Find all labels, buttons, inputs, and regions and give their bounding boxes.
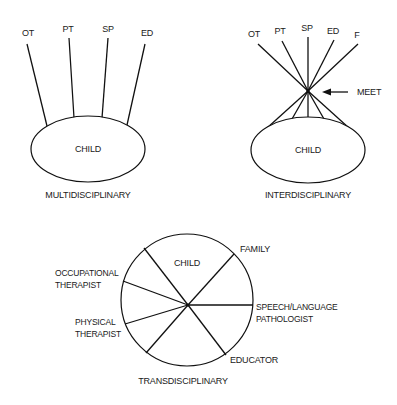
interdisciplinary-title: INTERDISCIPLINARY: [265, 190, 351, 200]
f-connector: [308, 44, 358, 91]
ed-connector: [308, 40, 334, 91]
ot-connector: [27, 44, 47, 126]
child-segment-label: CHILD: [174, 258, 201, 268]
pt-label: PT: [62, 24, 74, 34]
ot-label: OT: [22, 28, 35, 38]
ot-label-line1: OCCUPATIONAL: [55, 268, 119, 278]
pt-connector: [69, 38, 74, 118]
ed-label: ED: [141, 28, 154, 38]
family-label: FAMILY: [240, 244, 270, 254]
multidisciplinary-model: OT PT SP ED CHILD MULTIDISCIPLINARY: [22, 24, 154, 200]
transdisciplinary-title: TRANSDISCIPLINARY: [138, 376, 228, 386]
ed-label: ED: [327, 26, 340, 36]
slp-label-line2: PATHOLOGIST: [256, 314, 313, 324]
sp-connector: [102, 38, 108, 118]
transdisciplinary-model: CHILD FAMILY SPEECH/LANGUAGE PATHOLOGIST…: [55, 234, 338, 386]
ot-connector: [258, 44, 308, 91]
meet-to-child-line: [292, 91, 308, 119]
child-label: CHILD: [75, 144, 102, 154]
slp-label-line1: SPEECH/LANGUAGE: [256, 302, 338, 312]
ed-connector: [127, 44, 145, 125]
center-point: [186, 303, 189, 306]
meet-point: [306, 89, 310, 93]
interdisciplinary-model: OT PT SP ED F MEET CHILD INTERDISCIPLINA…: [248, 23, 382, 200]
child-label: CHILD: [295, 145, 322, 155]
multidisciplinary-title: MULTIDISCIPLINARY: [45, 190, 130, 200]
pt-label: PT: [274, 26, 286, 36]
pt-connector: [282, 41, 308, 91]
ot-label: OT: [248, 29, 261, 39]
pt-label-line1: PHYSICAL: [75, 317, 116, 327]
f-label: F: [354, 30, 360, 40]
meet-to-child-line: [308, 91, 324, 119]
team-circle: [121, 234, 253, 366]
meet-arrow-icon: [322, 89, 331, 96]
sp-label: SP: [301, 23, 313, 33]
team-models-diagram: OT PT SP ED CHILD MULTIDISCIPLINARY OT P…: [0, 0, 397, 405]
meet-label: MEET: [357, 87, 382, 97]
ot-label-line2: THERAPIST: [55, 280, 101, 290]
pt-label-line2: THERAPIST: [75, 329, 121, 339]
educator-label: EDUCATOR: [230, 355, 279, 365]
sp-label: SP: [102, 24, 114, 34]
